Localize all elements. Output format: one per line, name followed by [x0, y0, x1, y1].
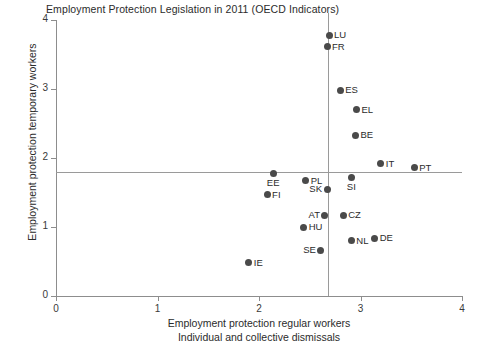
scatter-point[interactable]: [340, 212, 347, 219]
scatter-point-label: SI: [347, 181, 356, 192]
scatter-point-label: NL: [356, 235, 368, 246]
scatter-point-label: SE: [256, 244, 316, 255]
x-tick-mark: [259, 296, 260, 301]
x-tick-label: 1: [148, 303, 168, 314]
scatter-point[interactable]: [377, 160, 384, 167]
scatter-point-label: CZ: [348, 209, 361, 220]
y-axis-label: Employment protection temporary workers: [26, 2, 38, 282]
chart-title: Employment Protection Legislation in 201…: [46, 3, 339, 15]
scatter-point[interactable]: [371, 235, 378, 242]
plot-area: 01234 01234 LUFRESELBEITPTSIPLEESKFIATCZ…: [56, 20, 462, 296]
scatter-point[interactable]: [317, 247, 324, 254]
horizontal-reference-line: [56, 172, 462, 173]
x-tick-label: 4: [452, 303, 472, 314]
x-tick-label: 0: [46, 303, 66, 314]
scatter-point-label: HU: [309, 221, 323, 232]
scatter-point-label: IE: [254, 257, 263, 268]
scatter-point-label: SK: [262, 183, 322, 194]
scatter-point-label: FI: [272, 189, 280, 200]
scatter-point[interactable]: [270, 170, 277, 177]
scatter-point[interactable]: [348, 174, 355, 181]
scatter-point-label: EL: [361, 104, 373, 115]
scatter-point-label: LU: [334, 29, 346, 40]
x-axis-label-secondary: Individual and collective dismissals: [56, 331, 462, 343]
scatter-point[interactable]: [411, 164, 418, 171]
scatter-point[interactable]: [245, 259, 252, 266]
x-tick-mark: [462, 296, 463, 301]
scatter-point[interactable]: [300, 224, 307, 231]
scatter-point[interactable]: [337, 87, 344, 94]
scatter-point[interactable]: [264, 191, 271, 198]
y-tick-mark: [51, 227, 56, 228]
x-tick-label: 3: [351, 303, 371, 314]
scatter-point[interactable]: [348, 237, 355, 244]
scatter-point-label: IT: [386, 158, 394, 169]
scatter-point-label: FR: [332, 41, 345, 52]
x-tick-mark: [158, 296, 159, 301]
y-tick-mark: [51, 20, 56, 21]
x-tick-label: 2: [249, 303, 269, 314]
x-axis-label: Employment protection regular workers: [56, 317, 462, 329]
scatter-point-label: BE: [360, 129, 373, 140]
scatter-point-label: PT: [419, 162, 431, 173]
x-tick-mark: [361, 296, 362, 301]
scatter-point[interactable]: [326, 32, 333, 39]
x-tick-mark: [56, 296, 57, 301]
vertical-reference-line: [328, 13, 329, 296]
scatter-point-label: AT: [260, 209, 320, 220]
y-tick-mark: [51, 158, 56, 159]
chart-figure: Employment Protection Legislation in 201…: [0, 0, 486, 364]
scatter-point[interactable]: [353, 106, 360, 113]
y-axis-line: [56, 20, 57, 296]
scatter-point[interactable]: [324, 186, 331, 193]
y-tick-label: 0: [34, 289, 48, 300]
scatter-point[interactable]: [352, 132, 359, 139]
scatter-point-label: ES: [345, 84, 358, 95]
scatter-point-label: DE: [380, 232, 393, 243]
scatter-point[interactable]: [324, 43, 331, 50]
y-tick-mark: [51, 89, 56, 90]
